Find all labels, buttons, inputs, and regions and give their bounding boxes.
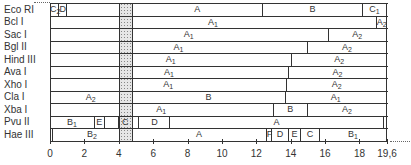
restriction-map: Eco RIC2DABC1Bcl IA1A2Sac IA1A2Bgl IIA1A…: [0, 0, 411, 165]
x-tick-label: 6: [150, 148, 156, 159]
map-row: A1A2: [50, 53, 388, 67]
fragment: D: [139, 116, 170, 130]
map-row: A1BA2: [50, 103, 388, 117]
map-row: A1A2: [50, 28, 388, 42]
x-tick-label: 10: [216, 148, 227, 159]
x-axis: [50, 141, 387, 142]
x-tick-label: 18: [354, 148, 365, 159]
enzyme-label: Sac I: [4, 29, 27, 41]
x-tick-label: 2: [82, 148, 88, 159]
x-tick: [291, 139, 292, 144]
fragment: A1: [50, 53, 292, 67]
fragment: A1: [50, 66, 289, 80]
fragment: [67, 3, 132, 17]
enzyme-label: Xba I: [4, 104, 27, 116]
fragment: [105, 116, 119, 130]
fragment: A2: [377, 16, 387, 30]
x-tick-label: 16: [320, 148, 331, 159]
fragment: C2: [50, 3, 59, 17]
enzyme-label: Cla I: [4, 91, 25, 103]
fragment: A1: [50, 78, 287, 92]
fragment: E: [95, 116, 105, 130]
fragment: A2: [289, 66, 387, 80]
x-tick-label: 14: [285, 148, 296, 159]
map-row: C2DABC1: [50, 3, 388, 17]
dotted-line: [390, 141, 410, 142]
enzyme-label: Eco RI: [4, 4, 34, 16]
map-row: B1ECDA: [50, 116, 388, 130]
fragment: A1: [50, 103, 274, 117]
x-tick: [256, 139, 257, 144]
map-row: A1A2: [50, 41, 388, 55]
fragment: B1: [320, 128, 387, 142]
enzyme-label: Bcl I: [4, 16, 23, 28]
x-tick-label: 19,6: [377, 148, 396, 159]
x-tick-label: 8: [185, 148, 191, 159]
enzyme-label: Bgl II: [4, 41, 27, 53]
x-tick: [325, 139, 326, 144]
dotted-line: [34, 2, 50, 3]
enzyme-label: Xho I: [4, 79, 27, 91]
map-row: A1A2: [50, 66, 388, 80]
map-row: A2BA1: [50, 91, 388, 105]
x-tick: [50, 139, 51, 144]
x-tick: [222, 139, 223, 144]
enzyme-label: Ava I: [4, 66, 27, 78]
fragment: [384, 116, 387, 130]
fragment: A2: [308, 103, 387, 117]
fragment: D: [59, 3, 67, 17]
fragment: B: [263, 3, 363, 17]
fragment: B: [274, 103, 308, 117]
fragment: C: [301, 128, 320, 142]
x-tick: [359, 139, 360, 144]
x-tick: [387, 139, 388, 144]
x-tick: [188, 139, 189, 144]
fragment: A1: [50, 41, 308, 55]
x-tick: [84, 139, 85, 144]
x-tick-label: 12: [251, 148, 262, 159]
fragment: B1: [50, 116, 95, 130]
fragment: A2: [329, 28, 387, 42]
x-tick-label: 0: [47, 148, 53, 159]
fragment: C1: [363, 3, 387, 17]
fragment: A1: [50, 16, 377, 30]
fragment: A1: [50, 28, 329, 42]
fragment: C: [119, 116, 133, 130]
map-row: A1A2: [50, 16, 388, 30]
map-row: B2AFDECB1: [50, 128, 388, 142]
x-tick-label: 4: [116, 148, 122, 159]
fragment: B: [133, 91, 286, 105]
fragment: A2: [292, 53, 387, 67]
map-row: A1A2: [50, 78, 388, 92]
fragment: B2: [53, 128, 133, 142]
x-tick: [153, 139, 154, 144]
enzyme-label: Pvu II: [4, 116, 30, 128]
fragment: D: [272, 128, 289, 142]
enzyme-label: Hind III: [4, 54, 36, 66]
fragment: [133, 116, 140, 130]
x-tick: [119, 139, 120, 144]
fragment: A: [133, 3, 264, 17]
fragment: A: [170, 116, 383, 130]
fragment: A1: [286, 91, 387, 105]
fragment: A2: [308, 41, 387, 55]
fragment: A2: [287, 78, 387, 92]
enzyme-label: Hae III: [4, 129, 33, 141]
fragment: A2: [50, 91, 133, 105]
